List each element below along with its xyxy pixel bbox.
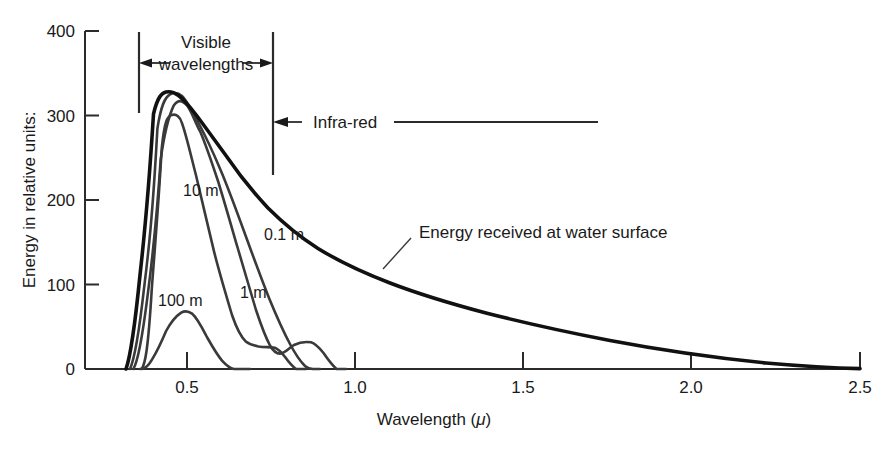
y-tick-label-300: 300 [47, 107, 75, 126]
x-tick-labels: 0.5 1.0 1.5 2.0 2.5 [175, 378, 872, 397]
visible-wavelengths-annotation: Visible wavelengths [139, 32, 273, 175]
x-tick-label-1.0: 1.0 [343, 378, 367, 397]
visible-wavelengths-label-line1: Visible [181, 33, 231, 52]
x-tick-label-1.5: 1.5 [511, 378, 535, 397]
water-surface-leader-line [383, 238, 411, 269]
x-axis-title-suffix: ) [486, 410, 492, 429]
visible-left-arrow-head [139, 59, 152, 68]
curve-label-10m: 10 m [183, 182, 219, 199]
water-surface-label: Energy received at water surface [419, 223, 668, 242]
x-tick-label-2.5: 2.5 [848, 378, 872, 397]
chart-figure: 400 300 200 100 0 0.5 1.0 1.5 2.0 2.5 En… [0, 0, 888, 453]
x-tick-label-0.5: 0.5 [175, 378, 199, 397]
y-tick-label-100: 100 [47, 276, 75, 295]
x-axis-title-prefix: Wavelength ( [377, 410, 477, 429]
x-tick-label-2.0: 2.0 [679, 378, 703, 397]
curve-1m [133, 101, 346, 369]
y-tick-label-400: 400 [47, 22, 75, 41]
curve-label-100m: 100 m [158, 292, 202, 309]
svg-text:Wavelength (μ): Wavelength (μ) [377, 410, 492, 429]
y-tick-labels: 400 300 200 100 0 [47, 22, 75, 379]
water-surface-callout: Energy received at water surface [383, 223, 668, 269]
curve-label-1m: 1 m [240, 284, 267, 301]
infra-red-label: Infra-red [313, 113, 377, 132]
visible-wavelengths-label-line2: wavelengths [158, 55, 254, 74]
visible-right-arrow-head [260, 59, 273, 68]
y-tick-label-200: 200 [47, 191, 75, 210]
energy-wavelength-chart: 400 300 200 100 0 0.5 1.0 1.5 2.0 2.5 En… [0, 0, 888, 453]
y-tick-label-0: 0 [66, 360, 75, 379]
infra-red-arrow-head [273, 117, 288, 127]
y-axis-title: Energy in relative units: [20, 112, 39, 289]
curve-label-0.1m: 0.1 m [264, 226, 304, 243]
x-axis-title: Wavelength (μ) [377, 410, 492, 429]
infra-red-annotation: Infra-red [273, 113, 598, 132]
